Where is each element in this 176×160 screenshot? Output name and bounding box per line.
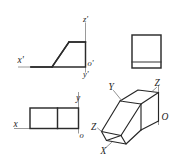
top-view-x-label: x <box>13 119 19 129</box>
front-view-y-label: y' <box>82 69 89 79</box>
isometric-front-face <box>100 101 141 139</box>
front-view-origin-label: o' <box>88 58 94 68</box>
isometric-y-leader <box>114 91 123 102</box>
isometric-z-left-leader <box>98 128 102 131</box>
isometric-z-top-leader <box>153 88 157 92</box>
isometric-view-group: Y Z Z X O <box>91 78 169 156</box>
drawing-canvas: x' z' o' y' x y o <box>0 0 176 160</box>
isometric-x-leader <box>106 143 112 148</box>
top-view-origin-label: o <box>80 130 84 140</box>
isometric-z-left-label: Z <box>91 122 97 132</box>
top-view-group: x y o <box>13 92 84 140</box>
front-view-group: x' z' o' y' <box>17 14 94 79</box>
top-view-face-fill <box>30 108 79 129</box>
top-view-y-label: y <box>75 93 81 103</box>
isometric-origin-label: O <box>162 112 169 122</box>
front-view-face-fill <box>31 42 86 67</box>
isometric-y-label: Y <box>109 82 116 92</box>
side-view-face-fill <box>132 35 161 68</box>
front-view-z-label: z' <box>82 14 88 24</box>
isometric-z-top-label: Z <box>155 78 161 88</box>
side-view-group <box>132 35 161 68</box>
front-view-x-label: x' <box>17 55 25 65</box>
drawing-sheet: x' z' o' y' x y o <box>0 0 176 160</box>
isometric-x-label: X <box>100 146 108 156</box>
